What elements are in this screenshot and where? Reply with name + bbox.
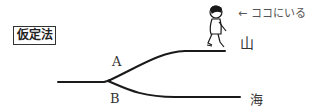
walking-person-icon xyxy=(207,6,226,47)
label-sea: 海 xyxy=(250,89,263,108)
main-path xyxy=(58,80,110,82)
path-diagram xyxy=(0,0,333,111)
upper-branch-path xyxy=(108,51,225,81)
label-branch-b: B xyxy=(110,91,120,106)
lower-branch-path xyxy=(108,81,240,97)
label-branch-a: A xyxy=(112,54,121,69)
label-mountain: 山 xyxy=(240,32,254,52)
